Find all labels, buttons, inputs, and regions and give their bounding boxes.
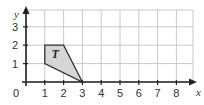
y-tick-label: 2 <box>12 39 18 51</box>
x-axis-label: x <box>195 86 201 98</box>
x-tick-label: 2 <box>61 87 67 99</box>
tick-labels: 12345678123 <box>12 21 180 99</box>
x-tick-label: 8 <box>173 87 179 99</box>
shape-label: T <box>51 47 59 61</box>
x-tick-label: 5 <box>117 87 123 99</box>
x-tick-label: 6 <box>136 87 142 99</box>
x-tick-label: 3 <box>79 87 85 99</box>
origin-label: 0 <box>13 87 19 99</box>
coordinate-grid-diagram: T 12345678123 x y 0 <box>0 0 204 105</box>
x-tick-label: 1 <box>42 87 48 99</box>
y-tick-label: 1 <box>12 58 18 70</box>
x-tick-label: 7 <box>155 87 161 99</box>
y-tick-label: 3 <box>12 21 18 33</box>
x-tick-label: 4 <box>98 87 104 99</box>
y-axis-label: y <box>13 8 19 20</box>
